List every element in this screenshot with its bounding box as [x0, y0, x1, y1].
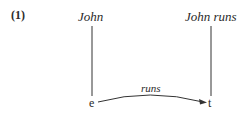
runs-arrow: [98, 95, 203, 102]
diagram-lines: [0, 0, 248, 113]
arrowhead-icon: [199, 99, 207, 105]
